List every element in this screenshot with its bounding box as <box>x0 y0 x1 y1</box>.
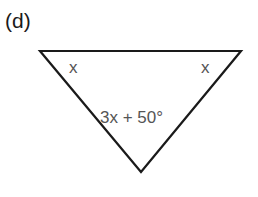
angle-label-top-left: x <box>69 58 78 77</box>
part-label: (d) <box>5 9 31 32</box>
angle-label-top-right: x <box>201 58 210 77</box>
angle-label-bottom: 3x + 50° <box>100 108 163 127</box>
triangle-diagram: (d) x x 3x + 50° <box>0 0 258 197</box>
